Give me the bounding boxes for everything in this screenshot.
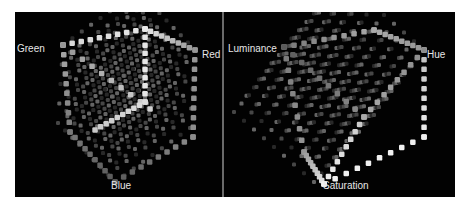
hsl-cube-visualization: [224, 12, 455, 197]
hsl-cube-panel: Luminance Hue Saturation: [224, 12, 455, 197]
rgb-cube-visualization: [15, 12, 222, 197]
axis-label-luminance: Luminance: [228, 43, 277, 55]
axis-label-red: Red: [202, 49, 220, 61]
axis-label-blue: Blue: [111, 180, 131, 192]
axis-label-green: Green: [17, 43, 45, 55]
axis-label-saturation: Saturation: [323, 180, 369, 192]
axis-label-hue: Hue: [427, 49, 445, 61]
rgb-cube-panel: Green Red Blue: [15, 12, 222, 197]
